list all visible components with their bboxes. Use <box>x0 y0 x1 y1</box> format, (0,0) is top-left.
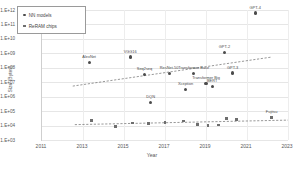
legend-label-reram-chips: ReRAM chips <box>29 24 57 29</box>
data-point-label: BERT <box>207 79 217 83</box>
y-tick-label: 1.E+11 <box>0 22 15 27</box>
data-point <box>164 121 167 124</box>
y-tick-label: 1.E+08 <box>0 65 15 70</box>
y-tick-label: 1.E+12 <box>0 8 15 13</box>
x-tick-label: 2013 <box>67 143 97 149</box>
trend-line <box>73 57 272 86</box>
data-point <box>147 122 150 125</box>
data-point <box>182 120 185 123</box>
data-point <box>270 116 273 119</box>
data-point-label: Transformer Base <box>178 66 209 70</box>
data-point <box>231 71 234 74</box>
legend-label-nn-models: NN models <box>29 13 52 18</box>
data-point <box>225 117 228 120</box>
y-tick-label: 1.E+09 <box>0 51 15 56</box>
legend-item-nn-models: NN models <box>23 11 52 19</box>
legend-item-reram-chips: ReRAM chips <box>23 22 57 30</box>
data-point <box>149 101 152 104</box>
data-point-label: DQN <box>146 95 155 99</box>
x-tick-label: 2015 <box>108 143 138 149</box>
x-axis-label: Year <box>0 152 304 158</box>
data-point-label: GPT-4 <box>250 6 261 10</box>
x-tick-label: 2019 <box>190 143 220 149</box>
data-point-label: Xception <box>178 82 193 86</box>
x-tick-label: 2021 <box>231 143 261 149</box>
x-tick-label: 2023 <box>272 143 302 149</box>
data-point <box>196 123 199 126</box>
data-point <box>184 88 187 91</box>
legend-marker-circle-icon <box>23 14 26 17</box>
gridline <box>288 10 289 140</box>
y-tick-label: 1.E+07 <box>0 80 15 85</box>
y-tick-label: 1.E+03 <box>0 138 15 143</box>
data-point <box>114 125 117 128</box>
data-point <box>207 124 210 127</box>
y-tick-label: 1.E+05 <box>0 109 15 114</box>
data-point <box>254 11 257 14</box>
data-point <box>217 124 220 127</box>
data-point <box>235 118 238 121</box>
data-point-label: GPT-2 <box>219 45 230 49</box>
y-tick-label: 1.E+04 <box>0 123 15 128</box>
data-point-label: GPT-3 <box>227 66 238 70</box>
chart-root: Size (Bytes) 1.E+121.E+111.E+101.E+091.E… <box>0 0 304 179</box>
y-tick-label: 1.E+10 <box>0 36 15 41</box>
data-point-label: Fujitsu <box>266 110 277 114</box>
legend-marker-square-icon <box>23 25 26 28</box>
x-tick-label: 2011 <box>26 143 56 149</box>
x-tick-label: 2017 <box>149 143 179 149</box>
chart-legend: NN models ReRAM chips <box>17 6 86 34</box>
data-point <box>211 85 214 88</box>
data-point <box>131 122 134 125</box>
gridline <box>42 140 288 141</box>
y-tick-label: 1.E+06 <box>0 94 15 99</box>
data-point-label: VGG16 <box>124 50 137 54</box>
data-point-label: Seq2seq <box>137 67 152 71</box>
data-point-label: ResNet-50 <box>160 66 179 70</box>
data-point-label: AlexNet <box>82 55 96 59</box>
data-point <box>168 72 171 75</box>
data-point <box>129 55 132 58</box>
data-point <box>90 119 93 122</box>
data-point <box>88 61 91 64</box>
